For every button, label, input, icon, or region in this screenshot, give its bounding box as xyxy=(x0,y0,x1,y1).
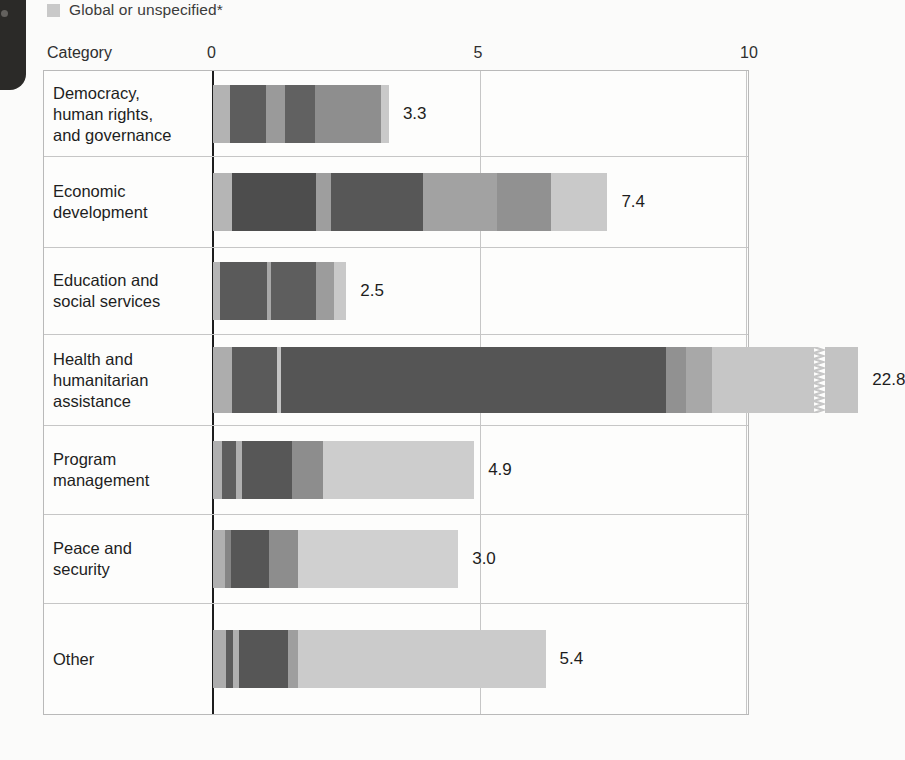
bar-segment[interactable] xyxy=(213,173,232,231)
row-category-label: Other xyxy=(53,649,203,670)
stacked-bar[interactable] xyxy=(213,630,546,688)
bar-value-label: 3.0 xyxy=(472,549,496,569)
bar-segment[interactable] xyxy=(271,262,317,320)
chart-row[interactable]: Economic development7.4 xyxy=(44,157,748,248)
bar-segment[interactable] xyxy=(686,347,712,413)
row-category-label: Peace and security xyxy=(53,538,203,580)
chart-row[interactable]: Peace and security3.0 xyxy=(44,515,748,604)
chart-row[interactable]: Democracy, human rights, and governance3… xyxy=(44,71,748,157)
bar-segment[interactable] xyxy=(423,173,497,231)
chart-row[interactable]: Health and humanitarian assistance22.8 xyxy=(44,335,748,426)
bar-segment[interactable] xyxy=(551,173,607,231)
bar-segment[interactable] xyxy=(213,85,230,143)
bar-value-label: 7.4 xyxy=(621,192,645,212)
x-axis-tick-5: 5 xyxy=(474,44,483,62)
bar-segment[interactable] xyxy=(292,441,323,499)
bar-segment[interactable] xyxy=(281,347,666,413)
bar-segment[interactable] xyxy=(316,173,331,231)
chart-row[interactable]: Program management4.9 xyxy=(44,426,748,515)
bar-segment[interactable] xyxy=(334,262,346,320)
chart-row[interactable]: Other5.4 xyxy=(44,604,748,714)
bar-segment[interactable] xyxy=(298,530,458,588)
bar-segment[interactable] xyxy=(239,630,289,688)
bar-value-label: 5.4 xyxy=(560,649,584,669)
stacked-bar-after-break[interactable] xyxy=(825,347,858,413)
stacked-bar[interactable] xyxy=(213,85,389,143)
bar-segment[interactable] xyxy=(266,85,285,143)
bar-segment[interactable] xyxy=(213,262,220,320)
category-column-header: Category xyxy=(47,44,112,62)
bar-segment[interactable] xyxy=(288,630,298,688)
bar-segment[interactable] xyxy=(666,347,686,413)
bar-segment[interactable] xyxy=(269,530,298,588)
chart-row[interactable]: Education and social services2.5 xyxy=(44,248,748,335)
stacked-bar[interactable] xyxy=(213,173,607,231)
bar-segment[interactable] xyxy=(213,630,226,688)
bar-segment[interactable] xyxy=(298,630,546,688)
bar-segment[interactable] xyxy=(222,441,236,499)
bar-segment[interactable] xyxy=(232,173,316,231)
row-category-label: Economic development xyxy=(53,181,203,223)
bar-segment[interactable] xyxy=(231,530,269,588)
bar-segment[interactable] xyxy=(285,85,314,143)
legend-swatch-icon xyxy=(47,4,60,17)
bar-segment[interactable] xyxy=(331,173,423,231)
stacked-bar-chart: Democracy, human rights, and governance3… xyxy=(43,70,749,715)
bar-value-label: 2.5 xyxy=(360,281,384,301)
bar-segment[interactable] xyxy=(381,85,389,143)
bar-segment[interactable] xyxy=(315,85,381,143)
axis-header: Category 0 5 10 xyxy=(43,44,803,68)
bar-segment[interactable] xyxy=(323,441,474,499)
page-edge-artifact xyxy=(0,0,26,90)
bar-value-label: 4.9 xyxy=(488,460,512,480)
page-edge-dot xyxy=(1,10,8,17)
bar-segment[interactable] xyxy=(230,85,266,143)
axis-break-marker xyxy=(814,347,825,413)
bar-segment[interactable] xyxy=(316,262,334,320)
bar-segment[interactable] xyxy=(497,173,552,231)
bar-value-label: 3.3 xyxy=(403,104,427,124)
bar-segment[interactable] xyxy=(220,262,267,320)
bar-segment[interactable] xyxy=(712,347,814,413)
bar-segment[interactable] xyxy=(242,441,292,499)
stacked-bar[interactable] xyxy=(213,530,458,588)
bar-segment[interactable] xyxy=(213,347,232,413)
row-category-label: Education and social services xyxy=(53,270,203,312)
stacked-bar[interactable] xyxy=(213,347,814,413)
bar-segment[interactable] xyxy=(213,441,222,499)
row-category-label: Democracy, human rights, and governance xyxy=(53,82,203,145)
row-category-label: Health and humanitarian assistance xyxy=(53,349,203,412)
bar-segment[interactable] xyxy=(213,530,225,588)
bar-segment[interactable] xyxy=(232,347,277,413)
bar-value-label: 22.8 xyxy=(872,370,905,390)
stacked-bar[interactable] xyxy=(213,441,474,499)
x-axis-tick-0: 0 xyxy=(207,44,216,62)
row-category-label: Program management xyxy=(53,449,203,491)
legend-item-label: Global or unspecified* xyxy=(69,1,223,19)
stacked-bar[interactable] xyxy=(213,262,346,320)
bar-segment[interactable] xyxy=(825,347,858,413)
chart-legend: Global or unspecified* xyxy=(47,1,223,19)
x-axis-tick-10: 10 xyxy=(740,44,758,62)
